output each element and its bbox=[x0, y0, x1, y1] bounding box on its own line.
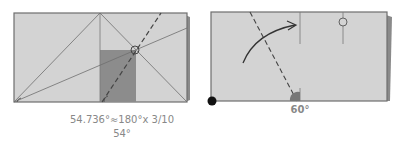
left-caption-formula: 54.736°≈180°x 3/10 bbox=[52, 114, 192, 125]
right-diagram bbox=[208, 12, 393, 106]
left-caption-angle: 54° bbox=[52, 128, 192, 139]
paper bbox=[211, 12, 387, 101]
left-diagram bbox=[14, 13, 190, 102]
corner-dot-icon bbox=[208, 97, 217, 106]
right-caption-angle: 60° bbox=[280, 104, 320, 115]
reference-point-icon bbox=[339, 18, 347, 26]
